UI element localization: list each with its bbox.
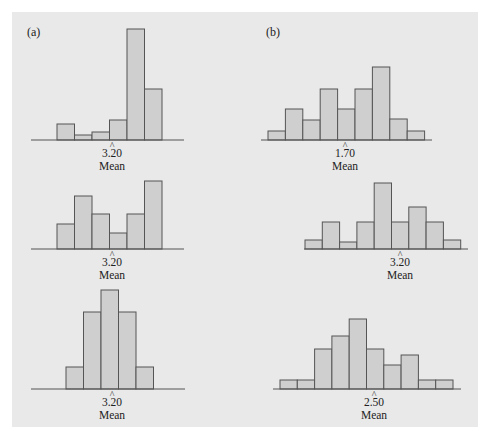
histogram-bar bbox=[320, 89, 337, 140]
histogram-bar bbox=[101, 290, 119, 389]
histogram-figure: (a) (b) ^3.20Mean^3.20Mean^3.20Mean^1.70… bbox=[0, 0, 490, 436]
histogram-bar bbox=[110, 233, 128, 249]
histogram-b2: ^3.20Mean bbox=[304, 183, 468, 281]
histogram-bar bbox=[297, 380, 314, 389]
mean-word-label: Mean bbox=[99, 409, 125, 421]
histogram-bar bbox=[443, 240, 460, 249]
histogram-bar bbox=[285, 109, 302, 140]
histogram-bar bbox=[127, 29, 145, 140]
mean-value-label: 3.20 bbox=[390, 256, 410, 268]
histogram-bar bbox=[349, 319, 366, 389]
mean-value-label: 2.50 bbox=[364, 396, 384, 408]
histogram-bar bbox=[92, 132, 110, 140]
histogram-bar bbox=[409, 207, 426, 249]
histogram-bar bbox=[145, 181, 163, 249]
histogram-bar bbox=[75, 196, 93, 249]
histogram-bar bbox=[322, 222, 339, 249]
mean-value-label: 3.20 bbox=[102, 147, 122, 159]
histogram-bar bbox=[66, 367, 84, 389]
histogram-b3: ^2.50Mean bbox=[273, 319, 461, 421]
histogram-bar bbox=[340, 242, 357, 249]
histogram-a1: ^3.20Mean bbox=[31, 29, 184, 172]
histogram-bar bbox=[110, 120, 128, 140]
histogram-bar bbox=[367, 349, 384, 389]
histogram-bar bbox=[315, 349, 332, 389]
mean-value-label: 1.70 bbox=[335, 147, 355, 159]
histogram-bar bbox=[280, 380, 297, 389]
mean-value-label: 3.20 bbox=[102, 256, 122, 268]
histogram-bar bbox=[57, 224, 75, 249]
histogram-a3: ^3.20Mean bbox=[31, 290, 185, 421]
histogram-bar bbox=[374, 183, 391, 249]
histogram-bar bbox=[355, 89, 372, 140]
histogram-bar bbox=[384, 365, 401, 389]
histogram-bar bbox=[119, 312, 137, 389]
mean-word-label: Mean bbox=[99, 269, 125, 281]
mean-word-label: Mean bbox=[387, 269, 413, 281]
histogram-bar bbox=[145, 89, 163, 140]
histogram-a2: ^3.20Mean bbox=[31, 181, 184, 281]
histogram-bar bbox=[357, 222, 374, 249]
histogram-bar bbox=[418, 380, 435, 389]
histogram-bar bbox=[92, 214, 110, 249]
histogram-bar bbox=[338, 109, 355, 140]
histogram-bar bbox=[305, 240, 322, 249]
mean-value-label: 3.20 bbox=[102, 396, 122, 408]
histogram-bar bbox=[436, 380, 453, 389]
histogram-bar bbox=[136, 367, 154, 389]
histogram-bar bbox=[332, 336, 349, 389]
histogram-bar bbox=[303, 120, 320, 140]
histogram-bar bbox=[426, 222, 443, 249]
histogram-bar bbox=[268, 131, 285, 140]
histogram-bar bbox=[407, 131, 424, 140]
mean-word-label: Mean bbox=[99, 160, 125, 172]
histogram-bar bbox=[75, 135, 93, 140]
histogram-b1: ^1.70Mean bbox=[261, 67, 432, 172]
histogram-bar bbox=[392, 222, 409, 249]
histogram-bar bbox=[127, 214, 145, 249]
mean-word-label: Mean bbox=[361, 409, 387, 421]
histogram-bar bbox=[390, 119, 407, 140]
panel-label-b: (b) bbox=[266, 25, 280, 39]
histogram-bar bbox=[84, 312, 102, 389]
histogram-bar bbox=[372, 67, 389, 140]
mean-word-label: Mean bbox=[332, 160, 358, 172]
histogram-bar bbox=[57, 124, 75, 140]
histogram-bar bbox=[401, 355, 418, 389]
panel-label-a: (a) bbox=[27, 25, 40, 39]
